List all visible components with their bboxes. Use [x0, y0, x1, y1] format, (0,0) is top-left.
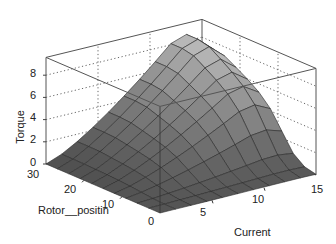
surface-plot: 0 2 4 6 8 30 20 10 0 5 10 15 Torque Roto…: [0, 0, 336, 244]
z-tick-2: 2: [30, 133, 36, 145]
z-tick-8: 8: [30, 67, 36, 79]
x-tick-5: 5: [200, 206, 206, 218]
x-tick-10: 10: [252, 193, 264, 205]
z-axis-ticks: 0 2 4 6 8: [30, 67, 36, 168]
y-tick-0: 0: [148, 215, 154, 227]
z-tick-4: 4: [30, 111, 36, 123]
torque-surface: [46, 34, 316, 213]
x-tick-15: 15: [311, 183, 323, 195]
x-axis-label: Current: [234, 226, 271, 238]
y-tick-30: 30: [27, 168, 39, 180]
z-tick-0: 0: [30, 156, 36, 168]
y-axis-label: Rotor__positin: [38, 204, 109, 216]
z-tick-6: 6: [30, 89, 36, 101]
y-tick-20: 20: [64, 183, 76, 195]
z-axis-label: Torque: [14, 110, 26, 144]
